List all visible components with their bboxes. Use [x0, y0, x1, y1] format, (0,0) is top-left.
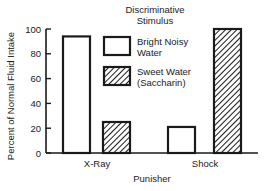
x-tick-label: X-Ray: [84, 158, 111, 169]
x-axis: X-RayShock: [46, 153, 258, 169]
bar-shock-sweet-water: [214, 29, 241, 153]
x-axis-title: Punisher: [133, 173, 171, 184]
bar-x-ray-bright-noisy-water: [63, 36, 90, 153]
y-tick-label: 40: [30, 98, 41, 109]
legend-swatch: [104, 67, 130, 85]
y-axis-title: Percent of Normal Fluid Intake: [5, 32, 16, 160]
y-axis-label: Percent of Normal Fluid Intake: [5, 32, 16, 160]
legend-label: Bright Noisy: [137, 36, 188, 47]
bar-shock-bright-noisy-water: [168, 127, 195, 153]
bar-x-ray-sweet-water: [103, 122, 130, 153]
legend-title: Stimulus: [137, 15, 174, 26]
legend-title: Discriminative: [125, 4, 184, 15]
legend-swatch: [104, 37, 130, 55]
y-tick-label: 20: [30, 123, 41, 134]
bar-chart: Percent of Normal Fluid Intake 020406080…: [0, 0, 268, 191]
x-tick-label: Shock: [192, 158, 219, 169]
y-tick-label: 80: [30, 48, 41, 59]
y-tick-label: 100: [25, 24, 41, 35]
legend-label: (Saccharin): [137, 77, 186, 88]
y-axis: 020406080100: [25, 24, 51, 159]
legend: DiscriminativeStimulusBright NoisyWaterS…: [104, 4, 191, 88]
legend-label: Sweet Water: [137, 66, 191, 77]
y-tick-label: 60: [30, 73, 41, 84]
legend-label: Water: [137, 47, 162, 58]
y-tick-label: 0: [36, 148, 41, 159]
